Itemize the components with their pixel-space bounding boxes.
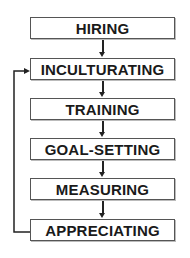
feedback-loop-arrow-icon bbox=[0, 0, 190, 258]
